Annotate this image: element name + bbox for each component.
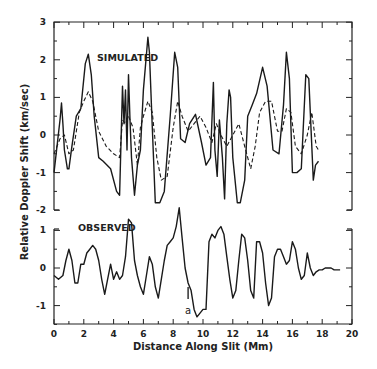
y-tick-label: 0 — [40, 130, 46, 140]
x-tick-label: 16 — [286, 329, 299, 339]
x-axis-title: Distance Along Slit (Mm) — [133, 341, 273, 352]
solid-series-line — [54, 37, 319, 203]
y-tick-label: 2 — [40, 55, 46, 65]
x-tick-label: 4 — [110, 329, 116, 339]
y-tick-label: 1 — [40, 225, 46, 235]
y-tick-label: -1 — [36, 168, 46, 178]
y-tick-label: 0 — [40, 263, 46, 273]
simulated-panel: 3210-1-2SIMULATED — [36, 17, 352, 215]
x-tick-label: 8 — [170, 329, 176, 339]
y-tick-label: -1 — [36, 301, 46, 311]
x-tick-label: 10 — [197, 329, 210, 339]
x-tick-label: 6 — [140, 329, 146, 339]
y-tick-label: 3 — [40, 17, 46, 27]
doppler-shift-chart: 3210-1-2SIMULATED 10-1OBSERVEDa 02468101… — [0, 0, 377, 369]
y-axis-title: Relative Doppler Shift (km/sec) — [19, 84, 30, 261]
y-tick-label: -2 — [36, 205, 46, 215]
observed-panel: 10-1OBSERVEDa — [36, 208, 352, 325]
x-tick-label: 2 — [81, 329, 87, 339]
y-tick-label: 1 — [40, 92, 46, 102]
x-tick-label: 14 — [256, 329, 269, 339]
x-tick-label: 12 — [227, 329, 240, 339]
x-tick-label: 0 — [51, 329, 57, 339]
x-axis: 02468101214161820 — [51, 319, 358, 339]
x-tick-label: 20 — [346, 329, 359, 339]
x-tick-label: 18 — [316, 329, 329, 339]
panel-frame — [54, 22, 352, 210]
annotation-label: a — [185, 305, 191, 316]
